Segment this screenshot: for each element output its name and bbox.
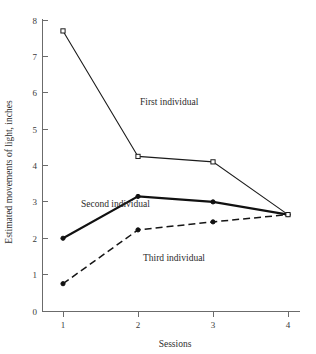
data-point-first-session-3 — [211, 160, 215, 164]
y-tick-label-4: 4 — [33, 161, 38, 171]
series-label-first-individual: First individual — [140, 97, 199, 107]
y-tick-label-8: 8 — [33, 16, 38, 26]
data-point-third-session-2 — [136, 228, 140, 232]
series-line-third-individual — [63, 215, 288, 284]
y-tick-label-2: 2 — [33, 234, 38, 244]
x-tick-label-3: 3 — [211, 320, 216, 330]
data-point-first-session-1 — [61, 29, 65, 33]
data-point-second-session-3 — [211, 200, 215, 204]
series-line-first-individual — [63, 31, 288, 215]
y-tick-label-7: 7 — [33, 52, 38, 62]
y-tick-label-3: 3 — [33, 197, 38, 207]
series-label-third-individual: Third individual — [143, 253, 205, 263]
data-point-first-session-2 — [136, 154, 140, 158]
y-tick-label-6: 6 — [33, 88, 38, 98]
y-tick-label-5: 5 — [33, 125, 38, 135]
x-tick-label-1: 1 — [61, 320, 66, 330]
y-axis-ticks — [43, 20, 49, 311]
data-point-third-session-1 — [61, 282, 65, 286]
data-point-second-session-2 — [136, 194, 140, 198]
data-point-second-session-1 — [61, 236, 65, 240]
data-point-third-session-3 — [211, 220, 215, 224]
y-axis-title: Estimated movements of light, inches — [4, 100, 14, 244]
y-tick-label-0: 0 — [33, 307, 38, 317]
chart-figure: 8 7 6 5 4 3 2 1 0 1 2 3 4 Sessions Estim… — [0, 0, 316, 354]
series-label-second-individual: Second individual — [81, 199, 150, 209]
series-markers-first-individual — [61, 29, 290, 217]
x-axis-title: Sessions — [159, 339, 192, 349]
x-axis-ticks — [63, 312, 288, 318]
y-tick-label-1: 1 — [33, 270, 38, 280]
x-tick-label-4: 4 — [286, 320, 291, 330]
data-point-first-session-4 — [286, 213, 290, 217]
series-markers-third-individual — [61, 213, 290, 286]
x-tick-label-2: 2 — [136, 320, 141, 330]
line-chart-canvas: 8 7 6 5 4 3 2 1 0 1 2 3 4 Sessions Estim… — [0, 0, 316, 354]
